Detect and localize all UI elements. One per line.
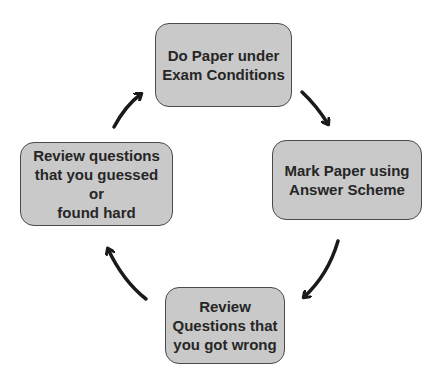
step-review-wrong-box: Review Questions that you got wrong — [165, 287, 285, 364]
step-review-guessed-box: Review questions that you guessed or fou… — [20, 142, 173, 226]
cycle-diagram: Do Paper under Exam Conditions Mark Pape… — [0, 0, 431, 388]
step-mark-paper-box: Mark Paper using Answer Scheme — [272, 140, 422, 220]
arrow-guessed-to-do — [114, 94, 141, 127]
arrow-mark-to-review-wrong — [304, 241, 338, 297]
step-do-paper-box: Do Paper under Exam Conditions — [155, 23, 292, 107]
arrow-review-wrong-to-guessed — [108, 249, 146, 299]
arrow-do-to-mark — [302, 92, 328, 124]
